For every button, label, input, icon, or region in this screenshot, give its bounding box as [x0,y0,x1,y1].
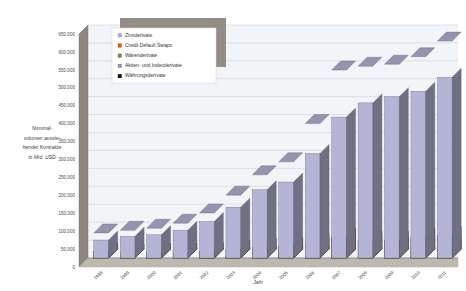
y-tick-label: 0 [72,265,75,270]
legend-swatch [118,64,122,68]
legend-label: Währungsderivate [125,72,166,78]
legend-swatch [118,34,122,38]
y-tick-label: 150.000 [58,211,75,216]
y-tick-label: 550.000 [58,68,75,73]
x-axis-label-text: Jahr [252,279,263,285]
y-tick-label: 400.000 [58,121,75,126]
legend-item[interactable]: Aktien- und Indexderivate [118,62,182,68]
x-axis-label: Jahr [252,279,263,285]
legend-swatch [118,54,122,58]
y-tick-label: 50.000 [61,247,75,252]
stacked-bar-chart: 050.000100.000150.000200.000250.000300.0… [0,0,466,291]
axis-wall [79,25,88,267]
legend-item[interactable]: Währungsderivate [118,72,166,78]
legend-label: Credit Default Swaps [125,42,172,48]
y-tick-label: 300.000 [58,157,75,162]
axis-floor [79,258,458,267]
y-axis-label-line: hender Kontrakte [23,144,62,150]
legend-label: Aktien- und Indexderivate [125,62,182,68]
legend-swatch [118,44,122,48]
legend-swatch [118,74,122,78]
segment-zinsderivate [305,144,329,258]
segment-zinsderivate [226,198,250,258]
y-axis-label-line: volumen ausste- [24,135,61,141]
y-tick-label: 450.000 [58,103,75,108]
segment-zinsderivate [358,94,382,258]
y-tick-label: 650.000 [58,32,75,37]
y-tick-label: 500.000 [58,85,75,90]
y-axis-label-line: in Mrd. USD [28,154,56,160]
segment-zinsderivate [411,82,435,258]
y-tick-label: 600.000 [58,50,75,55]
legend-label: Zinsderivate [125,32,152,38]
chart-container: 050.000100.000150.000200.000250.000300.0… [0,0,466,291]
legend-label: Warenderivate [125,52,158,58]
segment-zinsderivate [252,181,276,258]
segment-zinsderivate [332,108,356,258]
segment-zinsderivate [437,68,461,258]
chart-legend: ZinsderivateCredit Default SwapsWarender… [112,18,226,83]
y-tick-label: 200.000 [58,193,75,198]
segment-zinsderivate [279,173,303,258]
y-axis-label-line: Nominal- [32,125,52,131]
legend-item[interactable]: Credit Default Swaps [118,42,172,48]
segment-zinsderivate [385,88,409,258]
y-tick-label: 100.000 [58,229,75,234]
y-tick-label: 250.000 [58,175,75,180]
